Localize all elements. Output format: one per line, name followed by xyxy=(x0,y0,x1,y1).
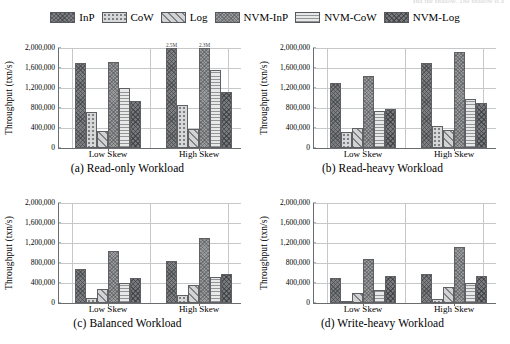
cropped-header-text: and the shadow. The shadow is a xyxy=(413,0,504,3)
legend-swatch-icon xyxy=(295,12,320,23)
y-tick-label: 1,200,000 xyxy=(280,239,310,247)
subplot-caption: (b) Read-heavy Workload xyxy=(255,162,510,174)
legend-item-log[interactable]: Log xyxy=(161,12,208,23)
legend-label: NVM-CoW xyxy=(324,12,377,23)
bar-nvm-inp xyxy=(454,247,465,303)
y-tick-label: 2,000,000 xyxy=(25,199,55,207)
bar-cow xyxy=(86,112,97,149)
legend-swatch-icon xyxy=(215,12,240,23)
plot-area: Low SkewHigh Skew xyxy=(313,203,496,304)
subplot-caption: (a) Read-only Workload xyxy=(0,162,255,174)
legend-swatch-icon xyxy=(102,12,127,23)
bar-cow xyxy=(177,295,188,303)
bar-nvm-cow xyxy=(374,290,385,303)
y-tick-label: 400,000 xyxy=(286,124,310,132)
legend-swatch-icon xyxy=(384,12,409,23)
x-tick-mark xyxy=(454,148,455,151)
bar-nvm-inp xyxy=(363,76,374,149)
legend-label: Log xyxy=(190,12,208,23)
x-tick-label: High Skew xyxy=(179,305,219,314)
legend-item-inp[interactable]: InP xyxy=(50,12,94,23)
y-tick-label: 400,000 xyxy=(31,124,55,132)
y-axis-ticks: 0400,000800,0001,200,0001,600,0002,000,0… xyxy=(269,48,313,148)
bar-inp xyxy=(421,63,432,149)
bar-log xyxy=(443,130,454,148)
plot-area: 2.5M2.3MLow SkewHigh Skew xyxy=(58,48,241,149)
legend-item-nvm-cow[interactable]: NVM-CoW xyxy=(295,12,377,23)
subplot-b: Throughput (txn/s)0400,000800,0001,200,0… xyxy=(255,34,510,189)
y-tick-label: 800,000 xyxy=(286,104,310,112)
bar-nvm-log xyxy=(385,109,396,148)
bar-value-label: 2.5M xyxy=(166,42,177,48)
y-tick-label: 2,000,000 xyxy=(280,199,310,207)
bar-cow xyxy=(432,299,443,304)
bar-group-high-skew xyxy=(421,203,487,303)
bar-inp xyxy=(330,278,341,303)
legend-item-nvm-inp[interactable]: NVM-InP xyxy=(215,12,289,23)
group-separator xyxy=(405,203,406,303)
bar-log xyxy=(443,287,454,303)
legend-item-cow[interactable]: CoW xyxy=(102,12,154,23)
bar-nvm-inp xyxy=(199,238,210,304)
x-tick-label: High Skew xyxy=(179,150,219,159)
x-tick-label: High Skew xyxy=(434,305,474,314)
bar-nvm-log xyxy=(385,276,396,303)
x-tick-mark xyxy=(363,148,364,151)
bar-nvm-cow xyxy=(465,99,476,148)
x-tick-mark xyxy=(108,303,109,306)
bar-nvm-inp xyxy=(108,62,119,148)
bar-nvm-inp xyxy=(363,259,374,303)
y-axis-ticks: 0400,000800,0001,200,0001,600,0002,000,0… xyxy=(14,203,58,303)
bar-inp xyxy=(421,274,432,303)
bar-nvm-inp: 2.3M xyxy=(199,48,210,148)
bar-nvm-cow xyxy=(119,283,130,304)
y-tick-label: 2,000,000 xyxy=(280,44,310,52)
y-tick-label: 1,600,000 xyxy=(280,64,310,72)
x-tick-label: High Skew xyxy=(434,150,474,159)
subplot-a: Throughput (txn/s)0400,000800,0001,200,0… xyxy=(0,34,255,189)
y-tick-label: 0 xyxy=(306,299,310,307)
plot-area: Low SkewHigh Skew xyxy=(58,203,241,304)
group-separator xyxy=(72,203,73,303)
subplot-caption: (c) Balanced Workload xyxy=(0,317,255,329)
chart-legend: InPCoWLogNVM-InPNVM-CoWNVM-Log xyxy=(0,12,510,23)
bar-inp: 2.5M xyxy=(166,48,177,148)
x-tick-mark xyxy=(108,148,109,151)
bar-nvm-log xyxy=(221,92,232,148)
bar-cow xyxy=(432,126,443,148)
y-tick-label: 800,000 xyxy=(31,259,55,267)
legend-item-nvm-log[interactable]: NVM-Log xyxy=(384,12,460,23)
bar-inp xyxy=(75,269,86,304)
subplot-d: Throughput (txn/s)0400,000800,0001,200,0… xyxy=(255,189,510,344)
bar-log xyxy=(97,131,108,149)
bar-nvm-cow xyxy=(210,70,221,149)
bar-inp xyxy=(330,83,341,148)
y-tick-label: 400,000 xyxy=(286,279,310,287)
bar-nvm-cow xyxy=(465,283,476,303)
bar-nvm-cow xyxy=(210,277,221,303)
y-tick-label: 2,000,000 xyxy=(25,44,55,52)
bar-nvm-log xyxy=(221,274,232,303)
group-separator xyxy=(405,48,406,148)
x-tick-label: Low Skew xyxy=(344,150,383,159)
bar-group-high-skew xyxy=(421,48,487,148)
bar-log xyxy=(97,289,108,304)
bar-nvm-cow xyxy=(374,111,385,148)
bar-log xyxy=(188,285,199,303)
bar-inp xyxy=(166,261,177,303)
bar-group-low-skew xyxy=(75,203,141,303)
x-tick-mark xyxy=(199,148,200,151)
legend-label: CoW xyxy=(131,12,154,23)
subplot-grid: Throughput (txn/s)0400,000800,0001,200,0… xyxy=(0,34,510,344)
bar-cow xyxy=(86,298,97,303)
y-tick-label: 800,000 xyxy=(286,259,310,267)
y-tick-label: 0 xyxy=(306,144,310,152)
bar-nvm-log xyxy=(130,101,141,148)
y-tick-label: 800,000 xyxy=(31,104,55,112)
x-tick-label: Low Skew xyxy=(89,305,128,314)
group-separator xyxy=(150,48,151,148)
plot-area: Low SkewHigh Skew xyxy=(313,48,496,149)
y-tick-label: 1,200,000 xyxy=(25,239,55,247)
y-tick-label: 1,200,000 xyxy=(280,84,310,92)
x-tick-label: Low Skew xyxy=(89,150,128,159)
